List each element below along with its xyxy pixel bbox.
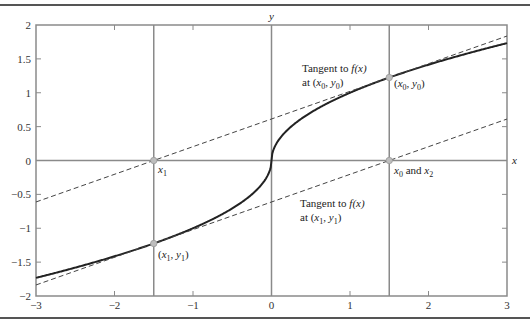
annotation-tangent1: Tangent to f(x) at (x1, y1) — [300, 197, 365, 226]
y-tick-label: 1.5 — [17, 53, 31, 65]
x-tick-label: 1 — [347, 299, 353, 311]
annotation-x0-x2: x0 and x2 — [393, 164, 433, 179]
tangent1-text: Tangent to — [300, 197, 349, 209]
x-axis-label: x — [511, 154, 517, 166]
tangent0-fx: f(x) — [351, 62, 367, 75]
x-tick-label: 3 — [504, 299, 510, 311]
point-x0-x2 — [386, 157, 392, 163]
point-x1 — [151, 157, 157, 163]
tangent1-fx: f(x) — [349, 197, 365, 210]
chart: −3−2−10123−2−1.5−1−0.500.511.52 y x Tang… — [0, 0, 530, 324]
annotation-tangent0: Tangent to f(x) at (x0, y0) — [302, 62, 367, 91]
y-tick-label: −0.5 — [11, 188, 31, 200]
y-tick-label: 0.5 — [17, 121, 31, 133]
svg-text:Tangent to f(x): Tangent to f(x) — [302, 62, 367, 75]
y-tick-label: 2 — [26, 19, 32, 31]
point-x0-y0 — [386, 74, 392, 80]
tangent0-text: Tangent to — [302, 62, 351, 74]
y-tick-label: −1 — [19, 222, 31, 234]
y-axis-label: y — [268, 10, 274, 22]
annotation-x1: x1 — [157, 163, 167, 178]
svg-text:Tangent to f(x): Tangent to f(x) — [300, 197, 365, 210]
y-tick-label: −2 — [19, 290, 31, 302]
annotation-point1: (x1, y1) — [158, 248, 189, 263]
tangent1-at: at (x1, y1) — [300, 211, 342, 226]
y-tick-label: 1 — [26, 87, 32, 99]
annotation-point0: (x0, y0) — [394, 77, 425, 92]
y-tick-label: −1.5 — [11, 256, 31, 268]
x-tick-label: 2 — [426, 299, 432, 311]
x-tick-label: −3 — [30, 299, 42, 311]
y-tick-label: 0 — [26, 155, 32, 167]
tangent0-at: at (x0, y0) — [302, 76, 344, 91]
point-x1-y1 — [151, 240, 157, 246]
x-tick-label: 0 — [269, 299, 275, 311]
x-tick-label: −1 — [187, 299, 199, 311]
x-tick-label: −2 — [109, 299, 121, 311]
